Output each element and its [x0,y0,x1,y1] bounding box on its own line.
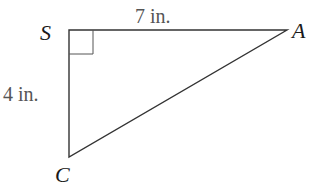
vertex-label-c: C [55,162,70,186]
vertex-label-s: S [40,20,51,45]
vertex-label-a: A [290,18,306,43]
side-label-sc: 4 in. [3,83,39,105]
triangle-sac [69,30,287,157]
right-angle-marker [69,30,93,54]
triangle-diagram: S A C 7 in. 4 in. [0,0,310,186]
side-label-sa: 7 in. [135,5,171,27]
